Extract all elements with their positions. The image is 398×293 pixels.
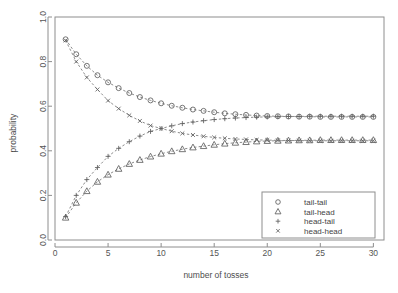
y-axis-title: probability: [8, 113, 18, 152]
y-tick-label: 0.6: [38, 100, 48, 112]
y-tick-label: 0.8: [38, 55, 48, 67]
x-tick-label: 25: [316, 248, 326, 258]
x-tick-label: 20: [263, 248, 273, 258]
x-axis-title: number of tosses: [183, 270, 248, 280]
x-tick-label: 5: [106, 248, 111, 258]
legend-label-tail-tail: tail-tail: [304, 198, 327, 207]
y-tick-label: 0.2: [38, 189, 48, 201]
probability-chart: 0.00.20.40.60.81.0 051015202530 tail-tai…: [0, 0, 398, 293]
chart-canvas: 0.00.20.40.60.81.0 051015202530 tail-tai…: [0, 0, 398, 293]
x-tick-label: 0: [53, 248, 58, 258]
x-tick-label: 15: [209, 248, 219, 258]
legend-label-head-tail: head-tail: [304, 217, 335, 226]
y-tick-label: 0.4: [38, 145, 48, 157]
legend-label-head-head: head-head: [304, 227, 342, 236]
y-tick-label: 0.0: [38, 234, 48, 246]
x-tick-label: 30: [369, 248, 379, 258]
chart-legend[interactable]: tail-tailtail-headhead-tailhead-head: [262, 192, 375, 238]
x-tick-label: 10: [156, 248, 166, 258]
y-tick-label: 1.0: [38, 11, 48, 23]
legend-label-tail-head: tail-head: [304, 208, 335, 217]
